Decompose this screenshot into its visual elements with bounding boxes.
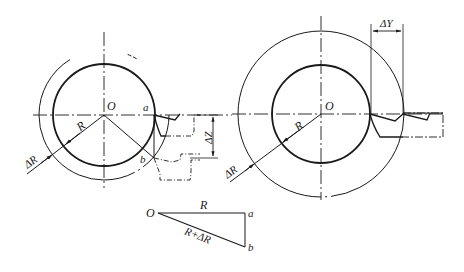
right-delta-r-label: ΔR bbox=[221, 163, 240, 181]
left-r-arrow bbox=[66, 133, 80, 144]
diagram-canvas: O a b R ΔR ΔZ O R ΔR ΔY O a bbox=[0, 0, 464, 272]
dz-label: ΔZ bbox=[202, 131, 214, 145]
left-view-labels: O a b R ΔR ΔZ bbox=[21, 99, 214, 171]
right-dr-arrow bbox=[245, 164, 254, 171]
left-ob-line bbox=[104, 115, 154, 158]
right-tool-body bbox=[403, 113, 443, 137]
cutting-tool-offset-diagram: O a b R ΔR ΔZ O R ΔR ΔY O a bbox=[0, 0, 464, 272]
right-center-label: O bbox=[325, 99, 334, 113]
left-tool-upper-outline bbox=[166, 115, 200, 136]
left-radius-label: R bbox=[73, 118, 89, 135]
triangle-r-plus-dr-label: R+ΔR bbox=[182, 224, 213, 245]
right-radius-line bbox=[230, 114, 321, 182]
triangle-o-label: O bbox=[146, 206, 155, 220]
left-view bbox=[27, 32, 232, 188]
left-point-a-label: a bbox=[143, 101, 149, 113]
left-delta-r-label: ΔR bbox=[21, 153, 40, 171]
triangle-a-label: a bbox=[248, 207, 254, 219]
left-center-label: O bbox=[107, 99, 116, 113]
left-point-b-label: b bbox=[140, 153, 146, 165]
right-view bbox=[230, 16, 443, 200]
left-dr-arrow bbox=[41, 155, 52, 163]
triangle-r-label: R bbox=[199, 198, 208, 212]
right-tool-profile bbox=[370, 113, 430, 137]
dy-label: ΔY bbox=[379, 17, 394, 29]
right-r-arrow bbox=[283, 131, 298, 142]
triangle-b-label: b bbox=[248, 241, 254, 253]
